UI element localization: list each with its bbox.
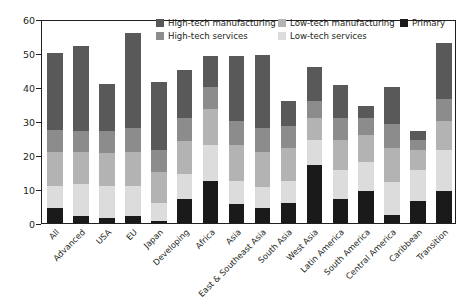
bar-segment[interactable]: [99, 218, 115, 223]
bar-segment[interactable]: [47, 152, 63, 186]
bar-segment[interactable]: [410, 170, 426, 201]
legend-label: High-tech services: [168, 31, 248, 41]
bar-segment[interactable]: [333, 199, 349, 223]
bar-column[interactable]: [384, 87, 400, 223]
bar-column[interactable]: [125, 33, 141, 223]
bar-segment[interactable]: [410, 150, 426, 170]
bar-segment[interactable]: [255, 187, 271, 207]
bar-segment[interactable]: [151, 150, 167, 172]
bar-segment[interactable]: [73, 152, 89, 184]
bar-segment[interactable]: [99, 131, 115, 153]
bar-column[interactable]: [229, 56, 245, 223]
bar-segment[interactable]: [436, 99, 452, 121]
legend-item-primary: Primary: [400, 18, 444, 28]
bar-segment[interactable]: [384, 148, 400, 182]
bar-segment[interactable]: [307, 67, 323, 101]
bar-segment[interactable]: [203, 145, 219, 181]
bar-segment[interactable]: [384, 182, 400, 214]
bar-column[interactable]: [151, 82, 167, 223]
bar-segment[interactable]: [384, 87, 400, 124]
bar-segment[interactable]: [307, 140, 323, 166]
bar-segment[interactable]: [358, 106, 374, 118]
bar-segment[interactable]: [177, 118, 193, 142]
bar-segment[interactable]: [229, 145, 245, 181]
bar-segment[interactable]: [281, 101, 297, 127]
bar-segment[interactable]: [358, 191, 374, 223]
bar-column[interactable]: [436, 43, 452, 223]
bar-segment[interactable]: [410, 131, 426, 140]
bar-segment[interactable]: [333, 170, 349, 199]
bar-segment[interactable]: [177, 70, 193, 118]
bar-segment[interactable]: [255, 152, 271, 188]
bar-segment[interactable]: [47, 130, 63, 152]
bar-segment[interactable]: [73, 184, 89, 216]
x-axis-tick-label: West Asia: [172, 227, 320, 301]
bar-segment[interactable]: [255, 55, 271, 128]
bar-segment[interactable]: [151, 221, 167, 223]
bar-segment[interactable]: [333, 85, 349, 117]
bar-column[interactable]: [333, 85, 349, 223]
bar-segment[interactable]: [410, 140, 426, 150]
bar-segment[interactable]: [384, 124, 400, 148]
bar-segment[interactable]: [384, 215, 400, 224]
bar-column[interactable]: [47, 53, 63, 223]
bar-column[interactable]: [73, 46, 89, 223]
bar-segment[interactable]: [203, 56, 219, 87]
bar-column[interactable]: [410, 131, 426, 223]
bar-segment[interactable]: [333, 140, 349, 171]
bar-segment[interactable]: [358, 162, 374, 191]
bar-segment[interactable]: [125, 152, 141, 186]
bar-column[interactable]: [307, 67, 323, 223]
bar-segment[interactable]: [73, 131, 89, 151]
bar-segment[interactable]: [177, 174, 193, 200]
legend-label: Low-tech services: [290, 31, 367, 41]
bar-segment[interactable]: [410, 201, 426, 223]
bar-segment[interactable]: [73, 216, 89, 223]
bar-segment[interactable]: [281, 148, 297, 180]
bar-segment[interactable]: [99, 186, 115, 218]
bar-segment[interactable]: [281, 203, 297, 223]
bar-segment[interactable]: [436, 121, 452, 150]
bar-column[interactable]: [99, 84, 115, 223]
bar-segment[interactable]: [281, 126, 297, 148]
bar-segment[interactable]: [47, 208, 63, 223]
bar-segment[interactable]: [47, 53, 63, 130]
bar-segment[interactable]: [177, 199, 193, 223]
bar-segment[interactable]: [99, 153, 115, 185]
bar-segment[interactable]: [436, 191, 452, 223]
bar-segment[interactable]: [307, 165, 323, 223]
bar-column[interactable]: [177, 70, 193, 223]
bar-segment[interactable]: [333, 118, 349, 140]
bar-segment[interactable]: [151, 172, 167, 203]
bar-segment[interactable]: [255, 208, 271, 223]
bar-segment[interactable]: [358, 118, 374, 135]
bar-segment[interactable]: [151, 82, 167, 150]
bar-segment[interactable]: [151, 203, 167, 222]
bar-segment[interactable]: [307, 101, 323, 118]
bar-segment[interactable]: [125, 216, 141, 223]
bar-segment[interactable]: [229, 181, 245, 205]
bar-segment[interactable]: [229, 204, 245, 223]
bar-segment[interactable]: [99, 84, 115, 132]
bar-segment[interactable]: [281, 181, 297, 203]
bar-segment[interactable]: [229, 56, 245, 121]
bar-segment[interactable]: [203, 87, 219, 109]
bar-segment[interactable]: [307, 118, 323, 140]
bar-segment[interactable]: [255, 128, 271, 152]
bar-column[interactable]: [255, 55, 271, 223]
bar-segment[interactable]: [125, 128, 141, 152]
bar-segment[interactable]: [436, 150, 452, 191]
bar-segment[interactable]: [229, 121, 245, 145]
bar-column[interactable]: [358, 106, 374, 223]
bar-segment[interactable]: [203, 109, 219, 145]
bar-segment[interactable]: [47, 186, 63, 208]
bar-segment[interactable]: [125, 33, 141, 128]
bar-segment[interactable]: [203, 181, 219, 224]
bar-segment[interactable]: [125, 186, 141, 217]
bar-column[interactable]: [281, 101, 297, 223]
bar-segment[interactable]: [73, 46, 89, 131]
bar-segment[interactable]: [436, 43, 452, 99]
bar-column[interactable]: [203, 56, 219, 223]
bar-segment[interactable]: [358, 135, 374, 162]
bar-segment[interactable]: [177, 141, 193, 173]
